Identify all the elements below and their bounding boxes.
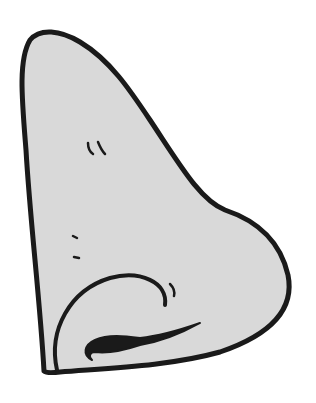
- nose-illustration: [0, 0, 316, 403]
- nose-drawing: [0, 0, 316, 403]
- dot-mark-lower: [74, 257, 79, 258]
